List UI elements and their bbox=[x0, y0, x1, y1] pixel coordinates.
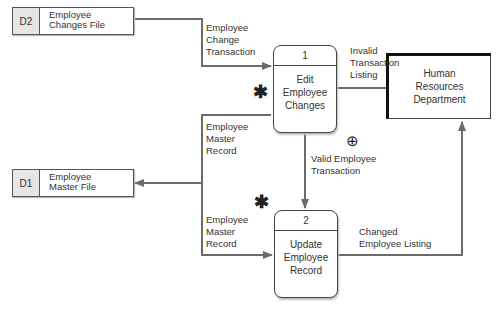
process-number: 1 bbox=[274, 46, 336, 66]
label-line: Transaction bbox=[311, 165, 376, 177]
label-changed-employee-listing: Changed Employee Listing bbox=[359, 226, 431, 250]
label-line: Transaction bbox=[350, 57, 399, 69]
label-line: Employee Listing bbox=[359, 238, 431, 250]
label-line: Employee bbox=[206, 22, 255, 34]
label-line: Employee bbox=[206, 121, 248, 133]
process-name: Edit Employee Changes bbox=[274, 66, 336, 112]
data-store-name: Employee Changes File bbox=[40, 8, 105, 34]
star-icon: ✱ bbox=[254, 193, 269, 211]
external-entity-hr-department[interactable]: Human Resources Department bbox=[386, 53, 491, 119]
label-employee-change-transaction: Employee Change Transaction bbox=[206, 22, 255, 58]
process-2-update-employee-record[interactable]: 2 Update Employee Record bbox=[274, 210, 338, 298]
data-store-id: D1 bbox=[13, 170, 40, 196]
star-icon: ✱ bbox=[253, 83, 268, 101]
process-number: 2 bbox=[275, 211, 337, 231]
data-store-d2[interactable]: D2 Employee Changes File bbox=[12, 7, 134, 35]
label-line: Change bbox=[206, 34, 255, 46]
data-store-d1[interactable]: D1 Employee Master File bbox=[12, 169, 134, 197]
label-line: Record bbox=[206, 238, 248, 250]
label-line: Employee bbox=[206, 214, 248, 226]
name-line: Edit bbox=[274, 73, 336, 86]
label-line: Record bbox=[206, 145, 248, 157]
label-employee-master-record-1: Employee Master Record bbox=[206, 121, 248, 157]
label-valid-employee-transaction: Valid Employee Transaction bbox=[311, 153, 376, 177]
name-line: Record bbox=[275, 264, 337, 277]
name-line: Resources bbox=[389, 80, 490, 93]
name-line: Changes File bbox=[49, 20, 105, 30]
label-line: Master bbox=[206, 226, 248, 238]
label-line: Listing bbox=[350, 69, 399, 81]
label-line: Changed bbox=[359, 226, 431, 238]
label-line: Master bbox=[206, 133, 248, 145]
label-employee-master-record-2: Employee Master Record bbox=[206, 214, 248, 250]
process-1-edit-employee-changes[interactable]: 1 Edit Employee Changes bbox=[273, 45, 337, 133]
name-line: Employee bbox=[275, 251, 337, 264]
label-line: Valid Employee bbox=[311, 153, 376, 165]
data-store-id: D2 bbox=[13, 8, 40, 34]
name-line: Master File bbox=[49, 182, 96, 192]
name-line: Changes bbox=[274, 99, 336, 112]
label-invalid-transaction-listing: Invalid Transaction Listing bbox=[350, 45, 399, 81]
data-store-name: Employee Master File bbox=[40, 170, 96, 196]
name-line: Update bbox=[275, 238, 337, 251]
name-line: Department bbox=[389, 93, 490, 106]
label-line: Transaction bbox=[206, 46, 255, 58]
process-name: Update Employee Record bbox=[275, 231, 337, 277]
label-line: Invalid bbox=[350, 45, 399, 57]
name-line: Employee bbox=[274, 86, 336, 99]
name-line: Human bbox=[389, 67, 490, 80]
circled-plus-icon: ⊕ bbox=[346, 133, 359, 148]
